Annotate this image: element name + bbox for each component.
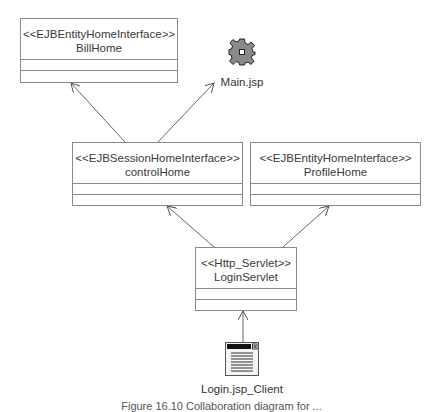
class-name: BillHome bbox=[21, 41, 177, 55]
class-header: <<EJBEntityHomeInterface>> BillHome bbox=[21, 19, 177, 59]
class-header: <<Http_Servlet>> LoginServlet bbox=[196, 248, 296, 288]
class-box-controlhome[interactable]: <<EJBSessionHomeInterface>> controlHome bbox=[72, 142, 243, 206]
attributes-compartment bbox=[73, 183, 242, 194]
class-name: LoginServlet bbox=[196, 270, 296, 284]
class-box-profilehome[interactable]: <<EJBEntityHomeInterface>> ProfileHome bbox=[250, 142, 421, 206]
gear-icon[interactable] bbox=[227, 37, 257, 67]
attributes-compartment bbox=[251, 183, 420, 194]
main-jsp-label: Main.jsp bbox=[212, 76, 272, 88]
stereotype-label: <<Http_Servlet>> bbox=[196, 256, 296, 270]
class-name: controlHome bbox=[73, 165, 242, 179]
class-box-loginservlet[interactable]: <<Http_Servlet>> LoginServlet bbox=[195, 247, 297, 311]
stereotype-label: <<EJBSessionHomeInterface>> bbox=[73, 151, 242, 165]
stereotype-label: <<EJBEntityHomeInterface>> bbox=[251, 151, 420, 165]
arrow-loginservlet-to-controlhome bbox=[167, 206, 214, 247]
operations-compartment bbox=[196, 299, 296, 312]
operations-compartment bbox=[73, 194, 242, 207]
stereotype-label: <<EJBEntityHomeInterface>> bbox=[21, 27, 177, 41]
attributes-compartment bbox=[21, 59, 177, 70]
arrow-loginservlet-to-profilehome bbox=[283, 206, 329, 247]
class-header: <<EJBEntityHomeInterface>> ProfileHome bbox=[251, 143, 420, 183]
figure-caption: Figure 16.10 Collaboration diagram for .… bbox=[0, 400, 443, 412]
login-client-label: Login.jsp_Client bbox=[182, 383, 302, 395]
arrow-controlhome-to-mainjsp bbox=[158, 83, 214, 142]
arrow-controlhome-to-billhome bbox=[71, 83, 125, 142]
class-header: <<EJBSessionHomeInterface>> controlHome bbox=[73, 143, 242, 183]
class-name: ProfileHome bbox=[251, 165, 420, 179]
class-box-billhome[interactable]: <<EJBEntityHomeInterface>> BillHome bbox=[20, 18, 178, 83]
attributes-compartment bbox=[196, 288, 296, 299]
web-page-icon[interactable] bbox=[225, 342, 259, 376]
collaboration-diagram: <<EJBEntityHomeInterface>> BillHome Main… bbox=[0, 0, 443, 412]
operations-compartment bbox=[251, 194, 420, 207]
operations-compartment bbox=[21, 70, 177, 83]
